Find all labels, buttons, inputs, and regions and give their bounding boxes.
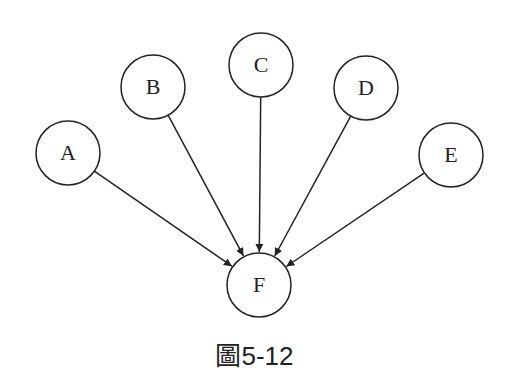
node-c: C [229, 33, 293, 97]
edge-d-to-f [275, 116, 351, 256]
node-f: F [227, 253, 291, 317]
node-label: E [444, 142, 457, 167]
node-a: A [36, 121, 100, 185]
node-label: C [254, 52, 269, 77]
node-b: B [121, 55, 185, 119]
edge-c-to-f [259, 97, 260, 252]
diagram-canvas: ABCDEF 圖5-12 [0, 0, 509, 377]
figure-caption: 圖5-12 [0, 335, 509, 372]
node-e: E [419, 123, 483, 187]
edge-a-to-f [94, 171, 232, 266]
node-label: B [146, 74, 161, 99]
edge-b-to-f [168, 115, 243, 256]
edge-e-to-f [286, 173, 424, 267]
node-label: D [358, 75, 374, 100]
node-label: A [60, 140, 76, 165]
directed-graph: ABCDEF [0, 0, 509, 377]
node-d: D [334, 56, 398, 120]
edges [94, 97, 424, 266]
node-label: F [253, 272, 265, 297]
